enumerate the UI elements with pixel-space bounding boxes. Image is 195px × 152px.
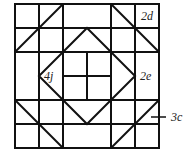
label-2d: 2d (141, 9, 154, 23)
label-2e: 2e (140, 69, 152, 83)
label-4j: 4j (44, 69, 54, 83)
labels: 2d 4j 2e 3c (44, 9, 183, 124)
label-3c: 3c (170, 110, 183, 124)
quilt-block-diagram: 2d 4j 2e 3c (0, 0, 195, 152)
grid-lines (15, 4, 159, 148)
